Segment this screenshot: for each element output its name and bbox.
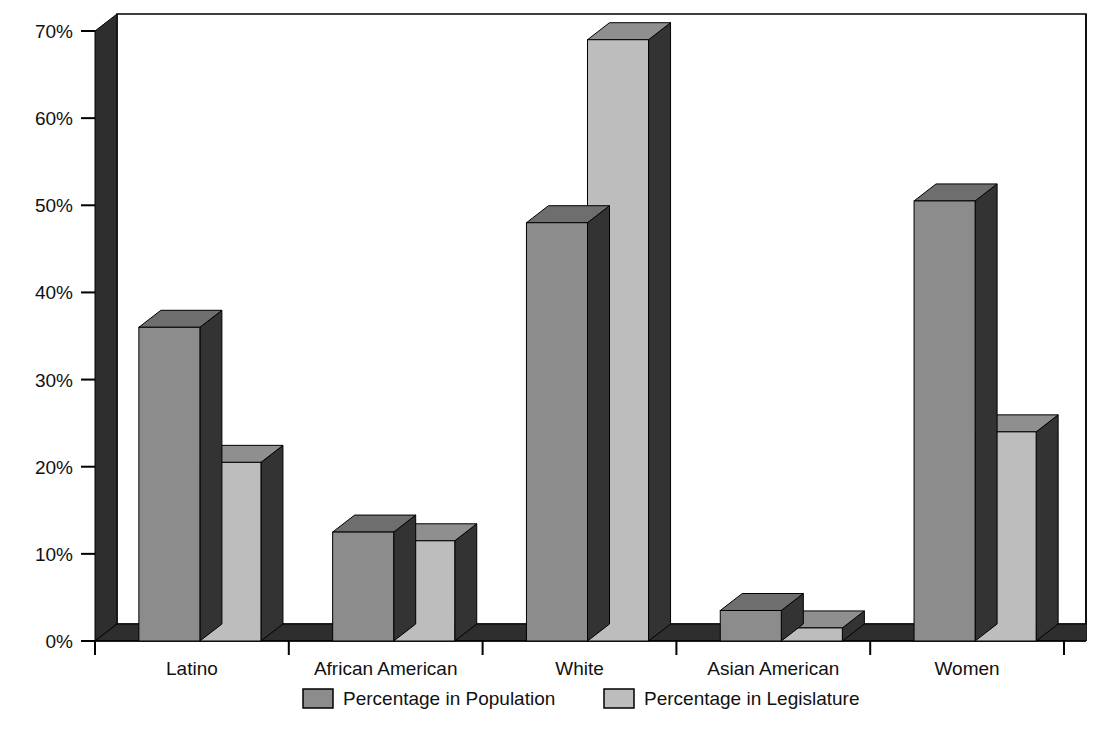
y-tick-label: 70%: [35, 21, 73, 42]
bar-asian-american-population: [720, 594, 803, 642]
bar-white-population: [526, 206, 609, 641]
x-axis: LatinoAfrican AmericanWhiteAsian America…: [95, 641, 1064, 679]
bar-front-face: [914, 201, 975, 641]
chart-legend: Percentage in PopulationPercentage in Le…: [303, 688, 859, 709]
left-wall: [95, 14, 117, 641]
y-tick-label: 30%: [35, 370, 73, 391]
y-axis: 0%10%20%30%40%50%60%70%: [35, 21, 95, 652]
bar-side-face: [975, 184, 997, 641]
bar-side-face: [261, 445, 283, 641]
x-category-label: Asian American: [707, 658, 839, 679]
y-tick-label: 20%: [35, 457, 73, 478]
legend-swatch-legislature: [604, 689, 634, 708]
x-category-label: White: [555, 658, 604, 679]
bar-african-american-population: [333, 515, 416, 641]
chart-canvas: 0%10%20%30%40%50%60%70% LatinoAfrican Am…: [0, 0, 1101, 732]
bar-side-face: [1036, 415, 1058, 641]
y-tick-label: 40%: [35, 282, 73, 303]
x-category-label: Latino: [166, 658, 218, 679]
y-tick-label: 50%: [35, 195, 73, 216]
x-category-label: African American: [314, 658, 458, 679]
bar-latino-population: [139, 310, 222, 641]
y-tick-label: 60%: [35, 108, 73, 129]
legend-label-population: Percentage in Population: [343, 688, 555, 709]
bar-front-face: [526, 223, 587, 641]
y-tick-label: 0%: [46, 631, 74, 652]
bar-chart: 0%10%20%30%40%50%60%70% LatinoAfrican Am…: [0, 0, 1101, 732]
bar-side-face: [649, 23, 671, 641]
bar-side-face: [588, 206, 610, 641]
bar-side-face: [394, 515, 416, 641]
bar-women-population: [914, 184, 997, 641]
x-category-label: Women: [935, 658, 1000, 679]
legend-swatch-population: [303, 689, 333, 708]
y-tick-label: 10%: [35, 544, 73, 565]
bar-side-face: [200, 310, 222, 641]
bar-front-face: [333, 532, 394, 641]
legend-label-legislature: Percentage in Legislature: [644, 688, 859, 709]
bar-front-face: [720, 611, 781, 642]
bar-front-face: [139, 327, 200, 641]
bar-side-face: [455, 524, 477, 641]
